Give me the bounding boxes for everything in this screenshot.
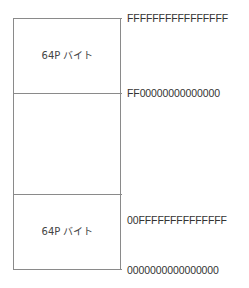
address-top: FFFFFFFFFFFFFFFF [127, 12, 228, 24]
address-upper-boundary: FF00000000000000 [127, 87, 220, 99]
divider-lower [13, 194, 122, 195]
divider-upper [13, 93, 122, 94]
segment-lower-label: 64P バイト [13, 226, 122, 238]
bottom-border [13, 269, 122, 270]
address-lower-boundary: 00FFFFFFFFFFFFFF [127, 214, 227, 226]
segment-upper-label: 64P バイト [13, 50, 122, 62]
address-bottom: 0000000000000000 [127, 264, 219, 276]
top-border [13, 18, 122, 19]
